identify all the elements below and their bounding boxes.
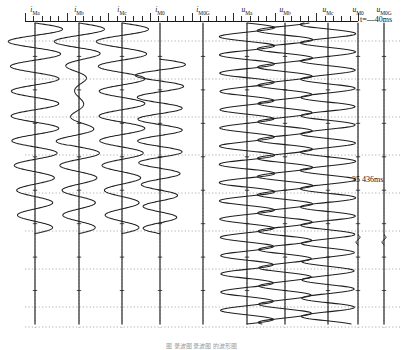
channel-label-i-m0g: iM0G xyxy=(196,5,209,14)
time-marker-middle: 35 436ms xyxy=(352,175,383,184)
oscillogram-figure: iMaiMbiMciM0iM0GuMauMbuMcuM0uM0G t=—40ms… xyxy=(0,0,403,350)
channel-label-subscript: Mb xyxy=(283,10,291,16)
ruler-major-tick xyxy=(192,13,193,21)
channel-label-u-m0g: uM0G xyxy=(376,5,391,14)
trace-layer xyxy=(0,21,403,329)
channel-label-subscript: Mb xyxy=(76,10,84,16)
time-marker-start: t=—40ms xyxy=(360,15,392,24)
channel-label-subscript: Mc xyxy=(326,10,333,16)
channel-label-u-m0: uM0 xyxy=(352,5,363,14)
channel-label-subscript: Ma xyxy=(32,10,39,16)
ruler-major-tick xyxy=(108,13,109,21)
channel-label-i-m0: iM0 xyxy=(155,5,165,14)
channel-label-i-mc: iMc xyxy=(117,5,126,14)
ruler-major-tick xyxy=(150,13,151,21)
channel-label-i-ma: iMa xyxy=(30,5,39,14)
channel-label-subscript: Ma xyxy=(245,10,252,16)
channel-label-i-mb: iMb xyxy=(74,5,84,14)
ruler-major-tick xyxy=(233,13,234,21)
channel-label-subscript: Mc xyxy=(119,10,126,16)
ruler-major-tick xyxy=(25,13,26,21)
channel-label-u-mb: uMb xyxy=(279,5,290,14)
ruler-major-tick xyxy=(316,13,317,21)
ruler-major-tick xyxy=(275,13,276,21)
figure-caption: 图 录波图 录波图 的波形图 xyxy=(0,341,403,350)
channel-label-subscript: M0G xyxy=(198,10,209,16)
channel-label-subscript: M0 xyxy=(157,10,165,16)
waveform-plot-area xyxy=(0,21,403,329)
channel-label-u-ma: uMa xyxy=(242,5,253,14)
channel-label-u-mc: uMc xyxy=(323,5,334,14)
ruler-major-tick xyxy=(67,13,68,21)
